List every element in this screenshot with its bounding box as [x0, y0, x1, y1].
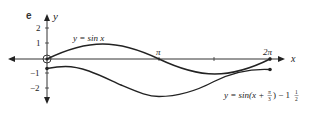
curve1-label: y = sin x [72, 33, 104, 43]
curve2-label-suffix: ) − 1 [273, 90, 290, 100]
y-tick-1: 1 [36, 38, 41, 48]
curve2-frac-num: π [268, 89, 271, 95]
y-axis-up-arrow-icon [44, 14, 50, 21]
curve2-start-dot-icon [45, 67, 49, 71]
origin-dot-icon [45, 57, 48, 60]
x-axis-right-arrow-icon [278, 56, 285, 62]
x-tick-pi: π [156, 47, 161, 57]
y-tick-minus2: −2 [30, 83, 40, 93]
y-tick-2: 2 [36, 23, 41, 33]
y-tick-minus1: −1 [30, 68, 40, 78]
curve2-end-dot-icon [268, 68, 272, 72]
part-label: e [26, 10, 32, 21]
curve2-label: y = sin(x + π 3 ) − 1 1 2 [223, 89, 299, 102]
y-axis-down-arrow-icon [44, 97, 50, 104]
y-axis-label: y [52, 10, 58, 22]
graph-canvas: e π 2π x 2 1 −1 −2 y y = sin x y = sin(x [0, 0, 310, 114]
curve2-half-num: 1 [295, 89, 298, 95]
x-tick-2pi: 2π [263, 47, 273, 57]
curve1-end-dot-icon [268, 57, 272, 61]
curve2-frac-den: 3 [268, 96, 271, 102]
curve2-half-den: 2 [295, 96, 298, 102]
curve2-label-prefix: y = sin(x + [223, 90, 264, 100]
x-axis-label: x [290, 53, 296, 64]
x-axis-left-arrow-icon [8, 56, 15, 62]
